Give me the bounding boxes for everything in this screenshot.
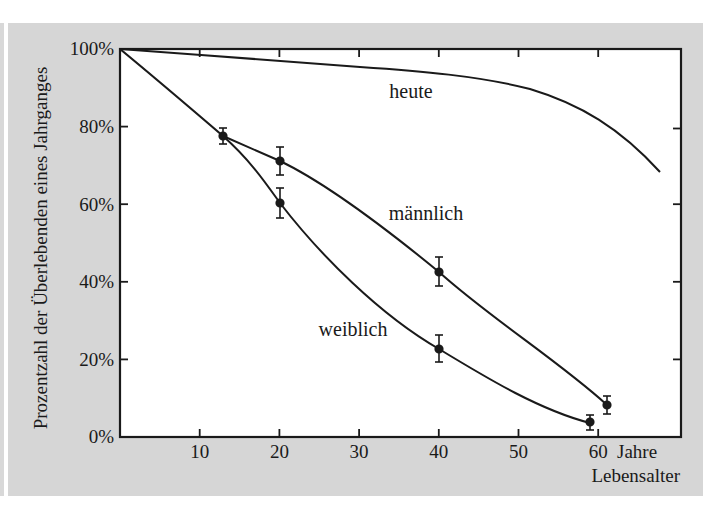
- y-tick-40: 40%: [79, 271, 114, 292]
- y-tick-20: 20%: [79, 349, 114, 370]
- label-maennlich: männlich: [389, 202, 463, 224]
- x-tick-20: 20: [270, 441, 289, 462]
- plot-area: [120, 49, 681, 437]
- x-tick-30: 30: [350, 441, 369, 462]
- label-weiblich: weiblich: [319, 318, 388, 340]
- label-heute: heute: [389, 80, 432, 102]
- y-tick-80: 80%: [79, 116, 114, 137]
- x-tick-40: 40: [429, 441, 448, 462]
- y-tick-0: 0%: [89, 426, 115, 447]
- x-tick-50: 50: [509, 441, 528, 462]
- y-axis-title: Prozentzahl der Überlebenden eines Jahrg…: [30, 67, 51, 430]
- y-tick-100: 100%: [70, 38, 115, 59]
- y-tick-60: 60%: [79, 194, 114, 215]
- x-tick-10: 10: [190, 441, 209, 462]
- x-axis-title: Lebensalter: [591, 465, 680, 486]
- survival-chart: 100% 80% 60% 40% 20% 0% 10 20 30 40 50 6…: [0, 0, 719, 518]
- x-unit-label: Jahre: [617, 441, 657, 462]
- x-tick-60: 60: [589, 441, 608, 462]
